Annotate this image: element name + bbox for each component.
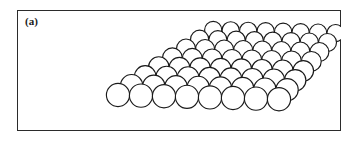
lattice-sphere — [221, 86, 244, 109]
panel-label-a: (a) — [25, 15, 38, 28]
lattice-sphere — [152, 85, 175, 108]
lattice-sphere — [244, 87, 267, 110]
lattice-sphere — [198, 86, 221, 109]
lattice-sphere — [175, 85, 198, 108]
lattice-sphere — [106, 83, 129, 106]
sphere-lattice-group — [106, 21, 341, 111]
sphere-lattice-diagram — [17, 10, 341, 131]
lattice-sphere — [267, 88, 290, 111]
lattice-sphere — [129, 84, 152, 107]
figure-container: (a) — [0, 0, 357, 143]
